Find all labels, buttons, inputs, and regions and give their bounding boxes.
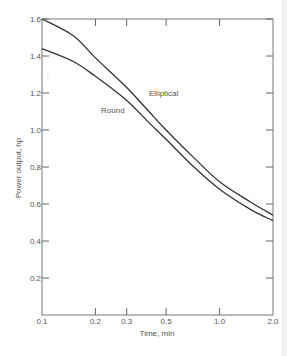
y-tick-label: 0.6 <box>30 200 42 209</box>
x-axis-label: Time, min <box>140 329 175 338</box>
y-axis-ticks: 0.20.40.60.81.01.21.41.6 <box>30 15 273 283</box>
x-tick-label: 0.2 <box>90 317 102 326</box>
x-axis-ticks: 0.10.20.30.51.02.0 <box>36 19 279 326</box>
page-edge-strip <box>281 0 287 356</box>
y-axis-label: Power output, hp <box>14 137 23 198</box>
x-tick-label: 0.3 <box>121 317 133 326</box>
x-tick-label: 0.1 <box>36 317 48 326</box>
y-tick-label: 1.0 <box>30 126 42 135</box>
curve-label-elliptical: Elliptical <box>149 89 179 98</box>
x-tick-label: 0.5 <box>161 317 173 326</box>
y-tick-label: 1.4 <box>30 52 42 61</box>
power-output-chart: 0.10.20.30.51.02.0 0.20.40.60.81.01.21.4… <box>0 0 287 356</box>
y-tick-label: 0.8 <box>30 163 42 172</box>
y-tick-label: 1.2 <box>30 89 42 98</box>
curve-label-round: Round <box>101 106 125 115</box>
scan-artifact-dot <box>47 76 48 77</box>
y-tick-label: 1.6 <box>30 15 42 24</box>
x-tick-label: 1.0 <box>214 317 226 326</box>
data-series <box>42 19 273 221</box>
y-tick-label: 0.4 <box>30 237 42 246</box>
x-tick-label: 2.0 <box>267 317 279 326</box>
series-line-elliptical <box>42 19 273 215</box>
y-tick-label: 0.2 <box>30 274 42 283</box>
